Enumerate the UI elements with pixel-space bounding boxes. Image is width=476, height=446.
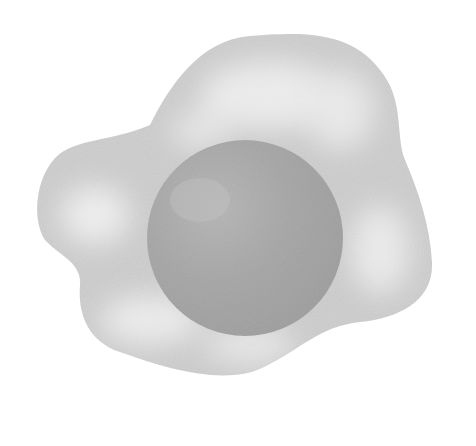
egg-yolk [147,140,343,336]
fried-egg-illustration [0,0,476,446]
fried-egg-graphic [0,0,476,446]
